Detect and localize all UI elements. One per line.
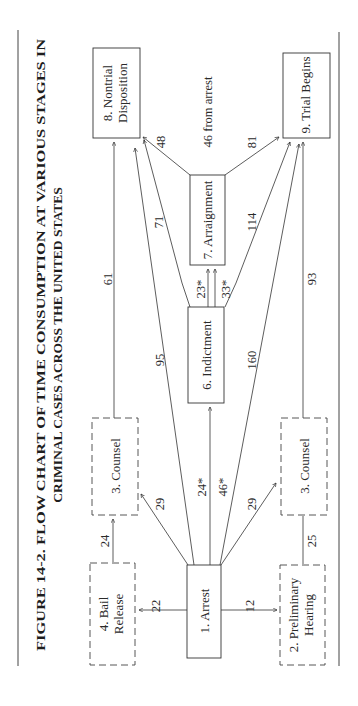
- edge-label-24-star: 24*: [195, 478, 209, 497]
- edge-label-12: 12: [243, 600, 257, 613]
- edge-label-33-star: 33*: [219, 280, 233, 299]
- edge-label-46-star: 46*: [216, 478, 230, 497]
- label-indictment: 6. Indictment: [199, 320, 214, 390]
- label-trial-begins: 9. Trial Begins: [298, 57, 313, 134]
- edge-label-61: 61: [101, 273, 115, 286]
- label-counsel-top: 3. Counsel: [108, 438, 123, 494]
- label-bail-1: 4. Bail: [96, 596, 111, 631]
- edge-label-23-star: 23*: [194, 280, 208, 299]
- flow-chart: FIGURE 14-2. FLOW CHART OF TIME CONSUMPT…: [0, 0, 358, 706]
- label-prelim-2: Hearing: [301, 594, 316, 636]
- edge-label-22: 22: [149, 600, 163, 613]
- edge-label-46-from-arrest: 46 from arrest: [201, 76, 215, 147]
- label-bail-2: Release: [111, 594, 126, 635]
- edge-label-48: 48: [154, 136, 168, 149]
- label-counsel-bottom: 3. Counsel: [297, 438, 312, 494]
- edge-label-93: 93: [305, 273, 319, 286]
- label-prelim-1: 2. Preliminary: [286, 577, 301, 652]
- edge-label-24: 24: [98, 534, 112, 547]
- edge-label-29-top: 29: [153, 498, 167, 511]
- label-arraignment: 7. Arraignment: [200, 180, 215, 259]
- edge-label-95: 95: [153, 354, 167, 367]
- label-arrest: 1. Arrest: [197, 588, 212, 633]
- label-nontrial-2: Disposition: [115, 63, 130, 123]
- figure-title-line2: CRIMINAL CASES ACROSS THE UNITED STATES: [50, 187, 65, 502]
- edge-label-29-bottom: 29: [245, 498, 259, 511]
- edge-label-71: 71: [152, 216, 166, 229]
- edge-label-81: 81: [245, 136, 259, 149]
- figure-title-line1: FIGURE 14-2. FLOW CHART OF TIME CONSUMPT…: [33, 39, 48, 651]
- edge-indictment-nontrial: [144, 140, 190, 307]
- edge-label-160: 160: [245, 351, 259, 370]
- edge-label-25: 25: [305, 535, 319, 548]
- edge-label-114: 114: [245, 212, 259, 231]
- label-nontrial-1: 8. Nontrial: [100, 64, 115, 121]
